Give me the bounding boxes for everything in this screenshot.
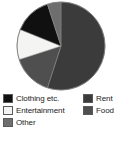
legend-swatch-clothing-icon xyxy=(3,94,13,103)
legend-item-rent[interactable]: Rent xyxy=(83,93,121,104)
legend-column-left: Clothing etc. Entertainment Other xyxy=(3,93,81,129)
legend-label-other: Other xyxy=(16,118,36,127)
legend-swatch-rent-icon xyxy=(83,94,93,103)
legend-label-food: Food xyxy=(96,106,114,115)
legend-label-clothing: Clothing etc. xyxy=(16,94,59,103)
pie-slice-group xyxy=(16,2,104,90)
legend-swatch-other-icon xyxy=(3,118,13,127)
legend-column-right: Rent Food xyxy=(83,93,121,117)
chart-legend: Clothing etc. Entertainment Other Rent F… xyxy=(0,93,121,141)
legend-label-rent: Rent xyxy=(96,94,113,103)
pie-plot-area xyxy=(0,0,121,92)
pie-chart-svg xyxy=(11,0,111,92)
legend-item-food[interactable]: Food xyxy=(83,105,121,116)
legend-item-clothing[interactable]: Clothing etc. xyxy=(3,93,81,104)
pie-chart-figure: Clothing etc. Entertainment Other Rent F… xyxy=(0,0,121,141)
legend-item-entertainment[interactable]: Entertainment xyxy=(3,105,81,116)
legend-label-entertainment: Entertainment xyxy=(16,106,65,115)
legend-swatch-entertainment-icon xyxy=(3,106,13,115)
legend-item-other[interactable]: Other xyxy=(3,117,81,128)
legend-swatch-food-icon xyxy=(83,106,93,115)
